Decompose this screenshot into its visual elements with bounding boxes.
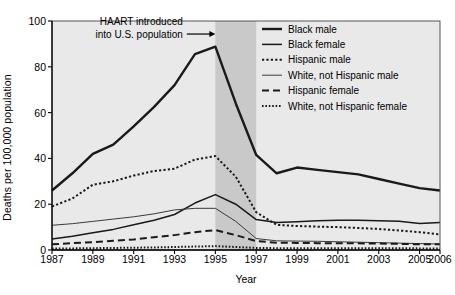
legend-label-black-male: Black male — [288, 24, 337, 35]
legend-label-white-not-hispanic-female: White, not Hispanic female — [288, 101, 407, 112]
legend-label-white-not-hispanic-male: White, not Hispanic male — [288, 70, 399, 81]
legend-label-hispanic-male: Hispanic male — [288, 54, 351, 65]
line-chart-plot: HAART introducedinto U.S. population Bla… — [0, 0, 455, 295]
annotation-line-2: into U.S. population — [95, 29, 182, 40]
shaded-bands — [52, 21, 440, 250]
legend-label-black-female: Black female — [288, 39, 346, 50]
annotation-line-1: HAART introduced — [100, 16, 183, 27]
legend-label-hispanic-female: Hispanic female — [288, 85, 360, 96]
chart-figure: Deaths per 100,000 population Year 02040… — [0, 0, 455, 295]
